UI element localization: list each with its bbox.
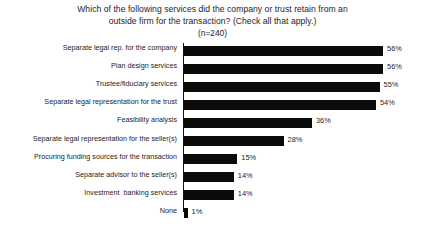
bar-chart: Which of the following services did the … (0, 0, 425, 226)
bar-row: Separate legal representation for the tr… (0, 97, 425, 115)
bar-category-label: Trustee/fiduciary services (0, 79, 177, 89)
bar-category-label: Feasibility analysis (0, 115, 177, 125)
bar (184, 100, 376, 110)
bar-row: Separate legal representation for the se… (0, 134, 425, 152)
bar (184, 82, 380, 92)
bar (184, 118, 312, 128)
bar-category-label: Separate legal representation for the tr… (0, 97, 177, 107)
bar-track (184, 64, 383, 74)
plot-area: Separate legal rep. for the company56%Pl… (0, 43, 425, 215)
bar-row: Investment banking services14% (0, 188, 425, 206)
chart-subtitle: (n=240) (0, 27, 425, 39)
bar-value-label: 56% (387, 62, 402, 72)
chart-title-line-2: outside firm for the transaction? (Check… (0, 16, 425, 28)
bar (184, 64, 383, 74)
bar-value-label: 15% (241, 153, 256, 163)
bar-track (184, 208, 188, 218)
bar-row: Procuring funding sources for the transa… (0, 152, 425, 170)
bar-category-label: Separate advisor to the seller(s) (0, 170, 177, 180)
bar-row: Feasibility analysis36% (0, 115, 425, 133)
bar-value-label: 56% (387, 44, 402, 54)
bar-category-label: Separate legal representation for the se… (0, 134, 177, 144)
bar-category-label: None (0, 206, 177, 216)
bar-track (184, 136, 284, 146)
bar-track (184, 154, 237, 164)
bar-row: Plan design services56% (0, 61, 425, 79)
bar-category-label: Procuring funding sources for the transa… (0, 152, 177, 162)
bar-value-label: 36% (316, 116, 331, 126)
bar-row: Separate advisor to the seller(s)14% (0, 170, 425, 188)
bar (184, 208, 188, 218)
bar-row: Separate legal rep. for the company56% (0, 43, 425, 61)
bar (184, 190, 234, 200)
bar (184, 46, 383, 56)
bar-row: Trustee/fiduciary services55% (0, 79, 425, 97)
bar-track (184, 190, 234, 200)
bar-value-label: 28% (288, 135, 303, 145)
bar-track (184, 100, 376, 110)
bar-value-label: 1% (192, 207, 203, 217)
bar-category-label: Plan design services (0, 61, 177, 71)
bar-category-label: Investment banking services (0, 188, 177, 198)
bar-value-label: 55% (384, 80, 399, 90)
bar-track (184, 118, 312, 128)
bar-value-label: 54% (380, 98, 395, 108)
bar-value-label: 14% (238, 189, 253, 199)
bar (184, 172, 234, 182)
bar-track (184, 46, 383, 56)
chart-title-block: Which of the following services did the … (0, 4, 425, 39)
bar-row: None1% (0, 206, 425, 224)
bar-track (184, 172, 234, 182)
bar (184, 154, 237, 164)
bar-track (184, 82, 380, 92)
bar (184, 136, 284, 146)
bar-category-label: Separate legal rep. for the company (0, 43, 177, 53)
chart-title-line-1: Which of the following services did the … (0, 4, 425, 16)
bar-value-label: 14% (238, 171, 253, 181)
